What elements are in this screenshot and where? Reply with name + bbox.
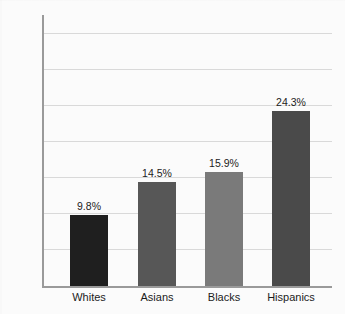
- x-axis-line: [42, 286, 332, 288]
- bar-value-whites: 9.8%: [57, 200, 121, 212]
- bar-value-blacks: 15.9%: [192, 157, 256, 169]
- bar-chart: 35% 30% 25% 20% 15% 10% 5% 0 9.8% 14.5% …: [0, 0, 345, 314]
- bar-hispanics[interactable]: [272, 111, 310, 286]
- x-category-label-hispanics: Hispanics: [245, 291, 337, 303]
- gridline-30: [42, 69, 332, 70]
- y-axis-line: [42, 15, 44, 286]
- bar-value-hispanics: 24.3%: [259, 96, 323, 108]
- bar-asians[interactable]: [138, 182, 176, 286]
- plot-area: 35% 30% 25% 20% 15% 10% 5% 0 9.8% 14.5% …: [42, 15, 332, 286]
- bar-whites[interactable]: [70, 215, 108, 286]
- bar-value-asians: 14.5%: [125, 167, 189, 179]
- gridline-35: [42, 33, 332, 34]
- bar-blacks[interactable]: [205, 172, 243, 286]
